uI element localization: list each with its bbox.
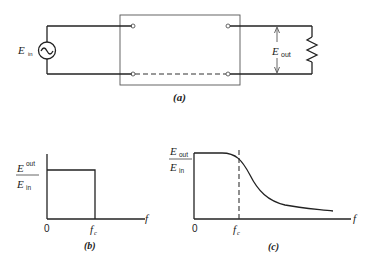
ylabel-num: E	[169, 145, 177, 157]
ylabel-num-sub: out	[179, 151, 188, 158]
ylabel-den: E	[16, 178, 24, 190]
output-label-sub: out	[281, 51, 291, 58]
output-terminal-top	[226, 24, 230, 28]
cutoff-sub: c	[94, 229, 97, 236]
real-response-curve	[194, 153, 333, 211]
output-terminal-bottom	[226, 72, 230, 76]
ideal-response-curve	[47, 170, 95, 219]
x-axis-label: f	[145, 212, 150, 224]
plot-c: E out E in 0 f c f (c)	[169, 145, 358, 253]
ylabel-num-sub: out	[26, 160, 35, 167]
filter-diagram: E out E in (a) E out E in 0 f c f (b) E …	[0, 0, 379, 263]
diagram-svg: E out E in (a) E out E in 0 f c f (b) E …	[0, 0, 379, 263]
sine-wave-icon	[41, 48, 53, 54]
origin-label: 0	[192, 223, 198, 234]
ylabel-den-sub: in	[179, 167, 184, 174]
output-label: E	[271, 45, 279, 57]
ylabel-den-sub: in	[26, 184, 31, 191]
cutoff-sub: c	[237, 229, 240, 236]
ylabel-num: E	[16, 162, 24, 174]
caption-b: (b)	[84, 240, 96, 252]
caption-c: (c)	[268, 241, 279, 253]
origin-label: 0	[44, 223, 50, 234]
source-label: E	[17, 44, 25, 56]
source-label-sub: in	[28, 51, 33, 57]
circuit-a: E out E in (a)	[17, 15, 317, 104]
plot-b: E out E in 0 f c f (b)	[16, 154, 150, 252]
x-axis-label: f	[353, 212, 358, 224]
resistor-icon	[307, 37, 317, 62]
ylabel-den: E	[169, 161, 177, 173]
caption-a: (a)	[173, 91, 186, 104]
